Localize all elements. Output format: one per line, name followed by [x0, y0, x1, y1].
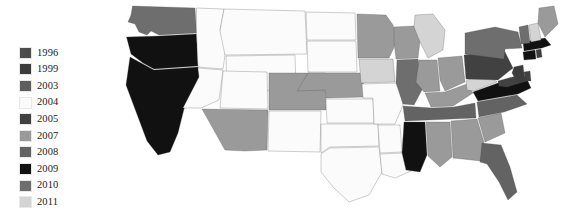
- map-region-mt[interactable]: [220, 9, 307, 55]
- legend-swatch-2003: [19, 80, 32, 92]
- map-region-nd[interactable]: [306, 12, 356, 40]
- legend-label-1999: 1999: [37, 64, 58, 75]
- legend-swatch-2009: [19, 163, 32, 175]
- map-region-sd[interactable]: [307, 41, 357, 72]
- legend-swatch-1996: [19, 47, 32, 59]
- legend-item-2008[interactable]: 2008: [19, 145, 81, 161]
- map-region-ct[interactable]: [523, 50, 536, 60]
- map-region-ga[interactable]: [451, 119, 484, 161]
- legend-swatch-2004: [19, 97, 32, 109]
- legend-item-2007[interactable]: 2007: [19, 128, 81, 144]
- map-region-tx[interactable]: [321, 147, 382, 202]
- legend-swatch-2010: [19, 180, 32, 192]
- map-region-de[interactable]: [524, 71, 531, 81]
- legend-swatch-2007: [19, 130, 32, 142]
- legend-item-2009[interactable]: 2009: [19, 161, 81, 177]
- map-region-al[interactable]: [426, 122, 452, 167]
- map-region-ut[interactable]: [220, 71, 268, 109]
- legend-label-2005: 2005: [37, 114, 58, 125]
- map-region-me[interactable]: [538, 6, 558, 37]
- map-region-nm[interactable]: [268, 111, 321, 152]
- legend-item-2005[interactable]: 2005: [19, 111, 81, 127]
- map-region-ny[interactable]: [465, 27, 522, 59]
- map-region-fl[interactable]: [480, 143, 517, 200]
- legend-label-2008: 2008: [37, 147, 58, 158]
- legend-swatch-2008: [19, 146, 32, 158]
- legend-label-1996: 1996: [37, 48, 58, 59]
- legend-item-2003[interactable]: 2003: [19, 78, 81, 94]
- map-region-vt[interactable]: [519, 25, 530, 44]
- legend-swatch-2005: [19, 113, 32, 125]
- us-choropleth-svg: [95, 2, 560, 210]
- legend-swatch-2011: [19, 196, 32, 208]
- map-region-ms[interactable]: [402, 122, 427, 172]
- map-region-ar[interactable]: [378, 125, 402, 153]
- map-region-ia[interactable]: [359, 59, 395, 83]
- legend-label-2011: 2011: [37, 197, 58, 208]
- year-legend: 1996 1999 2003 2004 2005 2007 2008: [19, 45, 81, 210]
- legend-label-2007: 2007: [37, 131, 58, 142]
- legend-item-2004[interactable]: 2004: [19, 95, 81, 111]
- legend-label-2004: 2004: [37, 97, 58, 108]
- legend-label-2003: 2003: [37, 81, 58, 92]
- map-region-ks[interactable]: [326, 99, 374, 123]
- map-region-oh[interactable]: [438, 56, 465, 91]
- map-region-ri[interactable]: [536, 49, 542, 58]
- map-region-mn[interactable]: [357, 14, 397, 58]
- legend-item-2011[interactable]: 2011: [19, 194, 81, 210]
- legend-swatch-1999: [19, 63, 32, 75]
- legend-item-1996[interactable]: 1996: [19, 45, 81, 61]
- legend-item-2010[interactable]: 2010: [19, 178, 81, 194]
- legend-label-2009: 2009: [37, 164, 58, 175]
- us-map-container: [95, 2, 560, 210]
- map-region-nh[interactable]: [529, 23, 541, 42]
- map-region-wa[interactable]: [128, 6, 197, 35]
- map-region-az[interactable]: [202, 109, 268, 151]
- choropleth-figure: 1996 1999 2003 2004 2005 2007 2008: [0, 0, 562, 212]
- legend-label-2010: 2010: [37, 180, 58, 191]
- legend-item-1999[interactable]: 1999: [19, 62, 81, 78]
